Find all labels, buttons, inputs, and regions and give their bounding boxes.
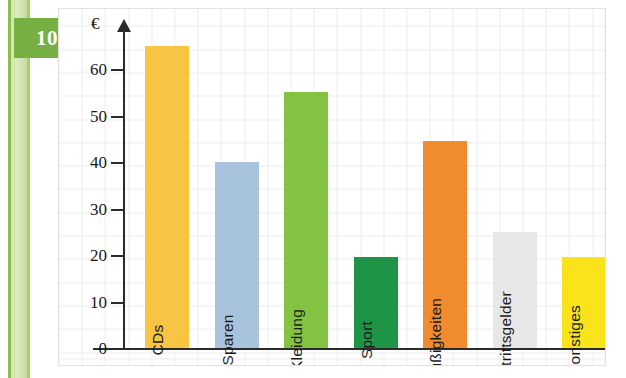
bar-label-sonstiges: Sonstiges: [566, 305, 584, 366]
y-tick-50: [111, 116, 124, 118]
left-stripe-edge: [8, 0, 11, 378]
bar-sport[interactable]: Sport: [354, 257, 398, 348]
page-root: 10 € 6050403020100 CDsSparenKleidungSpor…: [0, 0, 626, 378]
plot-area: € 6050403020100 CDsSparenKleidungSportSü…: [59, 9, 606, 366]
chapter-badge-label: 10: [36, 26, 58, 51]
y-tick-label-10: 10: [63, 293, 107, 313]
bar-label-sparen: Sparen: [219, 314, 237, 365]
y-tick-40: [111, 162, 124, 164]
bar-sonstiges[interactable]: Sonstiges: [562, 257, 606, 348]
bar-label-sport: Sport: [358, 321, 376, 359]
y-tick-20: [111, 255, 124, 257]
y-axis-unit-label: €: [91, 14, 100, 34]
x-axis-line: [93, 348, 605, 350]
bar-eintrittsgelder[interactable]: Eintrittsgelder: [493, 232, 537, 348]
bar-label-eintrittsgelder: Eintrittsgelder: [497, 291, 515, 366]
bar-label-cds: CDs: [149, 325, 167, 356]
y-tick-60: [111, 69, 124, 71]
bar-label-kleidung: Kleidung: [288, 309, 306, 366]
bar-sparen[interactable]: Sparen: [215, 162, 259, 348]
y-tick-30: [111, 209, 124, 211]
bar-chart: € 6050403020100 CDsSparenKleidungSportSü…: [58, 8, 606, 366]
bar-s-igkeiten[interactable]: Süßigkeiten: [423, 141, 467, 348]
y-tick-label-40: 40: [63, 153, 107, 173]
y-tick-label-0: 0: [63, 339, 107, 359]
y-tick-10: [111, 302, 124, 304]
bar-kleidung[interactable]: Kleidung: [284, 92, 328, 348]
chapter-badge: 10: [14, 18, 64, 58]
bar-cds[interactable]: CDs: [145, 46, 189, 348]
y-tick-label-20: 20: [63, 246, 107, 266]
y-tick-0: [111, 348, 124, 350]
y-tick-label-60: 60: [63, 60, 107, 80]
y-tick-label-50: 50: [63, 107, 107, 127]
y-tick-label-30: 30: [63, 200, 107, 220]
bar-label-s-igkeiten: Süßigkeiten: [427, 298, 445, 366]
